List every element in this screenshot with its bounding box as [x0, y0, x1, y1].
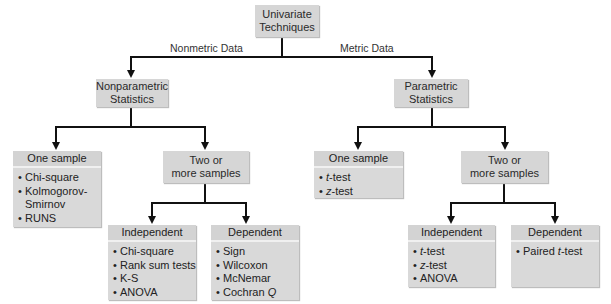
list-item: •ANOVA — [413, 272, 491, 286]
arrow-down-icon — [127, 70, 135, 78]
list-item: •Chi-square — [113, 245, 192, 259]
list-item: •McNemar — [216, 272, 295, 286]
list-item: •RUNS — [18, 212, 97, 226]
list-item: •Cochran Q — [216, 286, 295, 300]
edge-label-metric: Metric Data — [340, 42, 394, 54]
arrow-down-icon — [447, 216, 455, 224]
connector-param-indep — [450, 202, 452, 216]
arrow-down-icon — [354, 142, 362, 150]
node-label: Two or — [488, 154, 521, 167]
node-label: Parametric — [404, 80, 457, 93]
node-nonparam-dependent: Dependent •Sign •Wilcoxon •McNemar •Coch… — [211, 225, 299, 300]
test-list: •Paired t-test — [511, 242, 599, 261]
connector-param-left — [357, 126, 359, 142]
test-list: •t-test •z-test •ANOVA — [408, 242, 495, 288]
connector-nonparam-two-down — [204, 183, 206, 203]
test-list: •Sign •Wilcoxon •McNemar •Cochran Q — [211, 242, 299, 301]
list-item: •Wilcoxon — [216, 259, 295, 273]
connector-param-dep — [554, 202, 556, 216]
node-header: Independent — [408, 225, 495, 242]
test-list: •Chi-square •Kolmogorov- Smirnov •RUNS — [13, 168, 101, 227]
connector-nonparam-indep — [151, 202, 153, 216]
node-header: Dependent — [511, 225, 599, 242]
node-nonparametric-statistics: Nonparametric Statistics — [96, 79, 168, 107]
edge-label-nonmetric: Nonmetric Data — [170, 42, 243, 54]
node-header: Independent — [108, 225, 196, 242]
list-item: •Chi-square — [18, 171, 97, 185]
node-label: Univariate — [262, 8, 312, 21]
connector-nonparam-down — [130, 107, 132, 127]
test-list: •Chi-square •Rank sum tests •K-S •ANOVA — [108, 242, 196, 301]
node-nonparam-two-or-more: Two or more samples — [163, 151, 249, 183]
node-param-dependent: Dependent •Paired t-test — [511, 225, 599, 287]
list-item: •ANOVA — [113, 286, 192, 300]
node-nonparam-one-sample: One sample •Chi-square •Kolmogorov- Smir… — [13, 151, 101, 227]
connector-root-horizontal — [130, 56, 433, 58]
connector-nonparam-dep — [245, 202, 247, 216]
connector-param-two-down — [503, 183, 505, 203]
node-label: Statistics — [409, 93, 453, 106]
list-item: •Sign — [216, 245, 295, 259]
list-item: •z-test — [413, 259, 491, 273]
node-label: more samples — [470, 167, 539, 180]
node-header: One sample — [13, 151, 101, 168]
list-item: •t-test — [413, 245, 491, 259]
node-header: Dependent — [211, 225, 299, 242]
arrow-down-icon — [52, 142, 60, 150]
list-item: •Paired t-test — [516, 245, 595, 259]
connector-nonparam-horizontal — [55, 126, 206, 128]
connector-param-horizontal — [357, 126, 506, 128]
list-item: •Rank sum tests — [113, 259, 192, 273]
node-univariate-techniques: Univariate Techniques — [255, 5, 319, 37]
arrow-down-icon — [242, 216, 250, 224]
node-param-independent: Independent •t-test •z-test •ANOVA — [408, 225, 495, 287]
node-label: more samples — [171, 167, 240, 180]
connector-nonparam-left — [55, 126, 57, 142]
connector-param-right — [504, 126, 506, 142]
arrow-down-icon — [148, 216, 156, 224]
arrow-down-icon — [551, 216, 559, 224]
arrow-down-icon — [428, 70, 436, 78]
node-param-two-or-more: Two or more samples — [461, 151, 548, 183]
node-label: Techniques — [259, 21, 315, 34]
list-item-continuation: Smirnov — [18, 198, 97, 212]
list-item: •Kolmogorov- — [18, 185, 97, 199]
list-item: •z-test — [319, 185, 399, 199]
connector-nonparam-two-horizontal — [151, 202, 247, 204]
node-nonparam-independent: Independent •Chi-square •Rank sum tests … — [108, 225, 196, 300]
connector-param-down — [431, 107, 433, 127]
node-param-one-sample: One sample •t-test •z-test — [314, 151, 403, 198]
arrow-down-icon — [501, 142, 509, 150]
node-label: Nonparametric — [96, 80, 168, 93]
connector-root-down — [281, 37, 283, 57]
arrow-down-icon — [201, 142, 209, 150]
list-item: •t-test — [319, 171, 399, 185]
test-list: •t-test •z-test — [314, 168, 403, 200]
connector-param-two-horizontal — [450, 202, 556, 204]
connector-to-parametric — [431, 56, 433, 71]
connector-to-nonparametric — [130, 56, 132, 71]
list-item: •K-S — [113, 272, 192, 286]
connector-nonparam-right — [204, 126, 206, 142]
node-parametric-statistics: Parametric Statistics — [394, 79, 468, 107]
node-header: One sample — [314, 151, 403, 168]
node-label: Two or — [189, 154, 222, 167]
node-label: Statistics — [110, 93, 154, 106]
